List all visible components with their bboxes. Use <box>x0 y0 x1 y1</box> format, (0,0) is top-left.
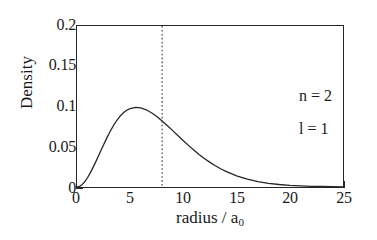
y-tick-label-005: 0.05 <box>49 139 76 155</box>
plot-canvas <box>77 26 343 187</box>
x-axis-title: radius / a0 <box>76 209 344 228</box>
y-axis-title: Density <box>18 33 35 133</box>
y-tick-label-02: 0.2 <box>57 17 76 33</box>
x-axis-title-main: radius / a <box>176 208 238 227</box>
plot-area: n = 2 l = 1 <box>76 25 344 188</box>
x-axis-title-subscript: 0 <box>238 216 244 228</box>
y-tick-label-015: 0.15 <box>49 57 76 73</box>
x-tick-label-5: 5 <box>126 190 134 206</box>
x-tick-label-0: 0 <box>72 190 80 206</box>
x-tick-mark-25 <box>344 181 345 188</box>
x-tick-label-10: 10 <box>175 190 191 206</box>
y-tick-label-01: 0.1 <box>57 98 76 114</box>
x-tick-label-20: 20 <box>282 190 298 206</box>
x-tick-label-25: 25 <box>336 190 352 206</box>
annotation-l: l = 1 <box>299 121 328 137</box>
annotation-n: n = 2 <box>299 88 332 104</box>
chart-figure: Density 0 0.05 0.1 0.15 0.2 0 5 10 15 20… <box>0 0 377 240</box>
x-tick-label-15: 15 <box>229 190 245 206</box>
